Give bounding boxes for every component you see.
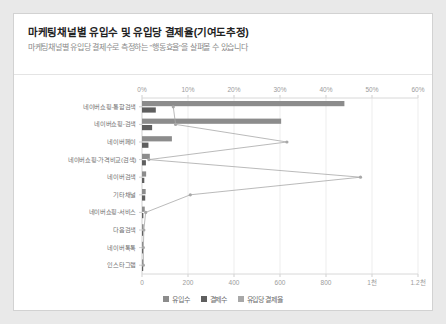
legend-swatch-payments — [201, 296, 207, 302]
top-axis-tick: 60% — [411, 86, 424, 93]
line-point-conversion-rate[interactable] — [144, 211, 147, 214]
bottom-axis-tick: 800 — [321, 279, 332, 286]
line-point-conversion-rate[interactable] — [174, 123, 177, 126]
header-divider — [14, 74, 432, 75]
card-header: 마케팅채널별 유입수 및 유입당 결제율(기여도추정) 마케팅채널별 유입당 결… — [14, 14, 432, 54]
line-point-conversion-rate[interactable] — [142, 264, 145, 267]
bar-inflow[interactable] — [142, 101, 344, 106]
bar-inflow[interactable] — [142, 136, 172, 141]
bottom-axis-tick: 200 — [183, 279, 194, 286]
line-point-conversion-rate[interactable] — [172, 105, 175, 108]
bottom-axis-tick: 1천 — [367, 278, 377, 286]
page-title: 마케팅채널별 유입수 및 유입당 결제율(기여도추정) — [28, 26, 418, 39]
legend-label-rate: 유입당 결제율 — [247, 294, 283, 304]
bar-payments[interactable] — [142, 213, 143, 218]
legend-item-rate[interactable]: 유입당 결제율 — [238, 294, 283, 304]
bar-inflow[interactable] — [142, 119, 281, 124]
bar-inflow[interactable] — [142, 207, 145, 212]
chart-plot-area: 0%10%20%30%40%50%60%02004006008001천1.2천네… — [14, 76, 432, 310]
bar-payments[interactable] — [142, 125, 152, 130]
bottom-axis-tick: 0 — [140, 279, 144, 286]
bar-payments[interactable] — [142, 107, 156, 112]
bottom-axis-tick: 1.2천 — [410, 278, 425, 286]
top-axis-tick: 0% — [137, 86, 147, 93]
chart-card: 마케팅채널별 유입수 및 유입당 결제율(기여도추정) 마케팅채널별 유입당 결… — [13, 13, 433, 311]
line-point-conversion-rate[interactable] — [189, 193, 192, 196]
top-axis-tick: 40% — [319, 86, 332, 93]
line-conversion-rate[interactable] — [143, 107, 360, 265]
category-label: 다음검색 — [113, 226, 136, 234]
legend-label-inflow: 유입수 — [172, 294, 189, 304]
bar-payments[interactable] — [142, 143, 148, 148]
category-label: 네이버쇼핑-가격비교(검색) — [68, 156, 136, 164]
bar-payments[interactable] — [142, 160, 146, 165]
line-point-conversion-rate[interactable] — [142, 228, 145, 231]
line-point-conversion-rate[interactable] — [147, 158, 150, 161]
line-point-conversion-rate[interactable] — [142, 246, 145, 249]
category-label: 인스타그램 — [107, 261, 136, 269]
category-label: 네이버검색 — [107, 173, 136, 181]
bar-payments[interactable] — [142, 195, 145, 200]
legend-swatch-inflow — [163, 296, 169, 302]
category-label: 기타채널 — [113, 191, 136, 199]
bottom-axis-tick: 400 — [229, 279, 240, 286]
bar-payments[interactable] — [142, 231, 143, 236]
top-axis-tick: 20% — [227, 86, 240, 93]
category-label: 네이버쇼핑-서비스 — [89, 208, 137, 216]
bar-inflow[interactable] — [142, 171, 146, 176]
bottom-axis-tick: 600 — [275, 279, 286, 286]
category-label: 네이버쇼핑-통합검색 — [83, 103, 136, 111]
category-label: 네이버톡톡 — [107, 244, 136, 252]
legend-label-payments: 결제수 — [210, 294, 227, 304]
legend-swatch-rate — [238, 296, 244, 302]
line-point-conversion-rate[interactable] — [285, 140, 288, 143]
bar-inflow[interactable] — [142, 189, 146, 194]
legend-item-payments[interactable]: 결제수 — [201, 294, 227, 304]
card-subtitle: 마케팅채널별 유입당 결제수로 측정하는 "행동효율"을 살펴볼 수 있습니다 — [28, 42, 418, 54]
category-label: 네이버페이 — [107, 138, 136, 146]
line-point-conversion-rate[interactable] — [359, 176, 362, 179]
category-label: 네이버쇼핑-검색 — [94, 120, 136, 128]
chart-legend: 유입수 결제수 유입당 결제율 — [14, 294, 432, 304]
top-axis-tick: 50% — [365, 86, 378, 93]
top-axis-tick: 10% — [181, 86, 194, 93]
bar-payments[interactable] — [142, 178, 144, 183]
legend-item-inflow[interactable]: 유입수 — [163, 294, 189, 304]
top-axis-tick: 30% — [273, 86, 286, 93]
combo-chart[interactable]: 0%10%20%30%40%50%60%02004006008001천1.2천네… — [14, 76, 432, 310]
